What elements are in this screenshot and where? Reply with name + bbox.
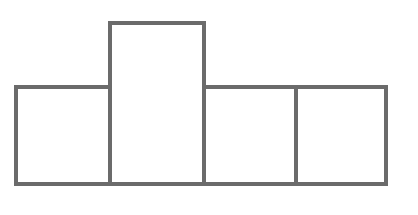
box-left (14, 85, 112, 186)
box-tall (108, 21, 206, 186)
block-diagram (0, 0, 418, 215)
box-middle-right (202, 85, 298, 186)
box-right (294, 85, 388, 186)
